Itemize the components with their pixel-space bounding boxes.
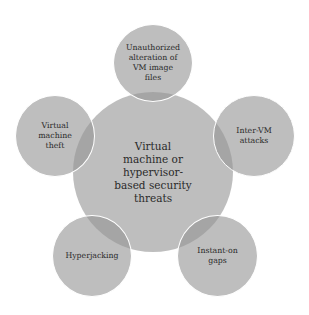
node-inter-vm-attacks: Inter-VM attacks [213,95,295,177]
node-label: Virtual machine theft [38,121,72,151]
node-label: Hyperjacking [65,251,118,261]
threats-diagram: Virtual machine or hypervisor- based sec… [0,0,309,315]
node-label: Unauthorized alteration of VM image file… [126,43,180,83]
node-vm-theft: Virtual machine theft [15,95,95,177]
node-hyperjacking: Hyperjacking [52,215,132,297]
node-label: Instant-on gaps [197,246,237,266]
center-label: Virtual machine or hypervisor- based sec… [114,140,191,205]
node-instant-on-gaps: Instant-on gaps [177,215,258,297]
node-vm-image-alteration: Unauthorized alteration of VM image file… [113,24,193,102]
node-label: Inter-VM attacks [236,126,271,146]
